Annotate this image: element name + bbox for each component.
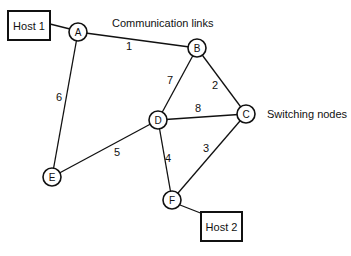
node-D: D bbox=[149, 111, 167, 129]
link-C-F bbox=[172, 114, 246, 200]
link-label-A-E: 6 bbox=[56, 91, 62, 103]
switching-nodes-annotation: Switching nodes bbox=[267, 108, 348, 120]
node-A: A bbox=[69, 23, 87, 41]
node-A-label: A bbox=[75, 27, 82, 38]
host-2: Host 2 bbox=[201, 212, 242, 241]
link-label-C-F: 3 bbox=[203, 142, 209, 154]
node-D-label: D bbox=[154, 115, 161, 126]
link-label-B-D: 7 bbox=[167, 74, 173, 86]
link-label-A-B: 1 bbox=[126, 40, 132, 52]
host-1: Host 1 bbox=[8, 11, 50, 40]
node-F-label: F bbox=[169, 195, 175, 206]
host-1-label: Host 1 bbox=[13, 20, 45, 32]
link-E-D bbox=[52, 120, 158, 177]
host2-link bbox=[180, 205, 203, 214]
link-label-D-C: 8 bbox=[195, 102, 201, 114]
link-label-B-C: 2 bbox=[212, 79, 218, 91]
link-label-D-F: 4 bbox=[165, 152, 171, 164]
link-B-D bbox=[158, 48, 197, 120]
node-C: C bbox=[237, 105, 255, 123]
link-B-C bbox=[197, 48, 246, 114]
host-2-label: Host 2 bbox=[206, 221, 238, 233]
links bbox=[52, 32, 246, 200]
node-E: E bbox=[43, 168, 61, 186]
node-F: F bbox=[163, 191, 181, 209]
link-labels: 1 2 3 4 5 6 7 8 bbox=[56, 40, 218, 164]
host1-link bbox=[50, 24, 70, 29]
link-A-B bbox=[78, 32, 197, 48]
network-diagram: 1 2 3 4 5 6 7 8 Host 1 Host 2 A B C D E … bbox=[0, 0, 351, 256]
node-B-label: B bbox=[194, 43, 201, 54]
node-B: B bbox=[188, 39, 206, 57]
node-C-label: C bbox=[242, 109, 249, 120]
link-D-C bbox=[158, 114, 246, 120]
link-A-E bbox=[52, 32, 78, 177]
link-label-E-D: 5 bbox=[114, 146, 120, 158]
node-E-label: E bbox=[49, 172, 56, 183]
communication-links-annotation: Communication links bbox=[112, 17, 214, 29]
